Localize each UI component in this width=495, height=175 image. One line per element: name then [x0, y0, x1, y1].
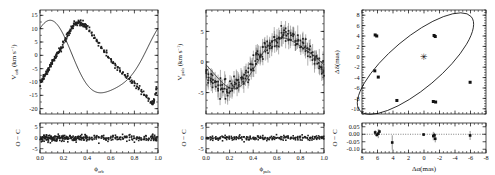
data-point — [114, 67, 116, 69]
residual-plot-frame — [362, 123, 486, 153]
residual-point — [301, 139, 303, 141]
residual-point — [154, 136, 156, 138]
axis-text: 4 — [391, 154, 394, 161]
data-point — [105, 55, 107, 57]
data-point — [240, 77, 242, 79]
residual-point — [243, 136, 245, 138]
axis-text: -2 — [354, 63, 359, 70]
data-point — [117, 66, 119, 68]
data-point — [128, 78, 130, 80]
data-point — [62, 44, 64, 46]
data-point — [252, 68, 254, 70]
residual-point — [311, 139, 313, 141]
residual-point — [116, 139, 118, 141]
axis-text: 0.2 — [226, 154, 234, 161]
residual-point — [57, 136, 59, 138]
residual-point — [68, 138, 70, 140]
orbit-measurement-point — [395, 99, 398, 102]
data-point — [295, 44, 297, 46]
residual-point — [124, 136, 126, 138]
residual-point — [422, 133, 425, 136]
data-point — [238, 85, 240, 87]
data-point — [245, 78, 247, 80]
residual-point — [143, 136, 145, 138]
residual-point — [57, 133, 59, 135]
residual-point — [122, 137, 124, 139]
axis-text: 6 — [376, 154, 379, 161]
axis-text: 8 — [356, 11, 359, 18]
residual-point — [316, 138, 318, 140]
data-point — [265, 46, 267, 48]
residual-axes: 0.00.20.40.60.81.050-5 — [198, 123, 328, 161]
data-point — [214, 81, 216, 83]
data-point — [255, 63, 257, 65]
data-point — [72, 27, 74, 29]
residual-point — [269, 137, 271, 139]
data-point — [210, 79, 212, 81]
data-point — [229, 80, 231, 82]
axis-text: -10 — [29, 78, 37, 85]
residual-point — [304, 136, 306, 138]
y-axis-label: Vorb (km s−1) — [10, 44, 19, 80]
residual-point — [110, 137, 112, 139]
data-point — [297, 34, 299, 36]
data-point — [114, 63, 116, 65]
data-point — [55, 54, 57, 56]
residual-point — [115, 134, 117, 136]
data-point — [225, 78, 227, 80]
residual-point — [297, 138, 299, 140]
residual-point — [132, 139, 134, 141]
orbit-measurement-point — [377, 76, 380, 79]
residual-point — [153, 138, 155, 140]
residual-point — [314, 136, 316, 138]
residual-point — [50, 142, 52, 144]
data-point — [155, 93, 157, 95]
data-point — [80, 19, 82, 21]
data-point — [269, 47, 271, 49]
residual-point — [134, 137, 136, 139]
data-point — [116, 69, 118, 71]
data-point — [256, 58, 258, 60]
data-point — [225, 98, 227, 100]
data-point — [100, 47, 102, 49]
data-point — [286, 35, 288, 37]
residual-point — [228, 136, 230, 138]
data-point — [51, 61, 53, 63]
residual-point — [107, 141, 109, 143]
residual-point — [212, 140, 214, 142]
residual-point — [134, 141, 136, 143]
residual-point — [257, 139, 259, 141]
residual-point — [133, 135, 135, 137]
residual-point — [257, 135, 259, 137]
residual-point — [241, 136, 243, 138]
data-point — [145, 94, 147, 96]
axis-text: 1.0 — [320, 154, 328, 161]
residual-point — [292, 135, 294, 137]
model-curve — [40, 20, 158, 93]
residual-point — [115, 138, 117, 140]
residual-point — [129, 134, 131, 136]
residual-point — [292, 137, 294, 139]
residual-point — [208, 137, 210, 139]
residual-point — [106, 137, 108, 139]
data-point — [127, 75, 129, 77]
residual-point — [301, 134, 303, 136]
data-point — [148, 100, 150, 102]
residual-point — [219, 138, 221, 140]
data-point — [96, 39, 98, 41]
data-point — [250, 69, 252, 71]
residual-point — [220, 136, 222, 138]
data-point — [257, 50, 259, 52]
residual-point — [44, 138, 46, 140]
data-point — [290, 34, 292, 36]
residual-point — [469, 134, 472, 137]
residual-point — [216, 138, 218, 140]
residual-point — [262, 135, 264, 137]
residual-point — [309, 139, 311, 141]
axis-text: 0 — [200, 134, 203, 141]
residual-y-label: O − C — [14, 129, 22, 147]
orbit-measurement-point — [434, 35, 437, 38]
data-point — [208, 77, 210, 79]
data-point — [288, 39, 290, 41]
axis-text: 6 — [356, 22, 359, 29]
